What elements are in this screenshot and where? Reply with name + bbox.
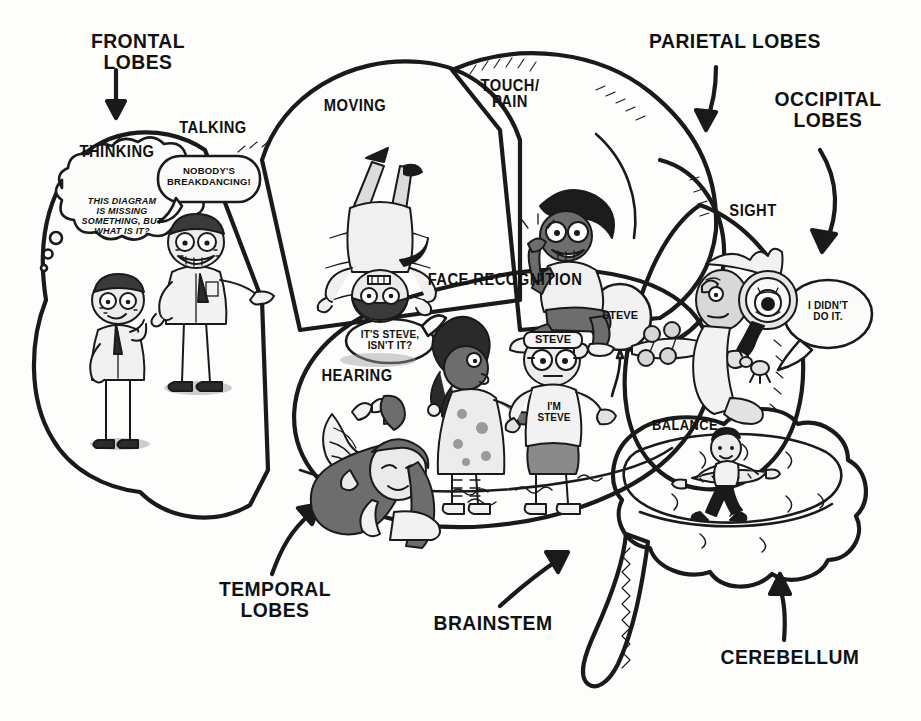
label-hearing: HEARING <box>306 368 407 384</box>
steve-balloon-text: STEVE <box>592 310 648 322</box>
steve-headband-text: STEVE <box>524 334 582 346</box>
figure-talking-man <box>151 214 274 395</box>
figure-hearing-girl <box>311 396 440 548</box>
label-occipital-lobes: OCCIPITAL LOBES <box>754 88 901 131</box>
label-parietal-lobes: PARIETAL LOBES <box>648 30 823 51</box>
label-brainstem: BRAINSTEM <box>415 612 571 633</box>
label-balance: BALANCE <box>634 418 735 432</box>
label-touch-pain: TOUCH/ PAIN <box>466 78 554 111</box>
figure-detective <box>693 249 797 424</box>
steve-tshirt-text: I'M STEVE <box>528 402 580 423</box>
bubble-text-detective: I DIDN'T DO IT. <box>788 300 868 322</box>
figure-balance-walker <box>672 428 780 520</box>
label-cerebellum: CEREBELLUM <box>707 646 873 667</box>
bubble-text-talking: NOBODY'S BREAKDANCING! <box>160 166 258 187</box>
label-talking: TALKING <box>162 120 263 136</box>
label-sight: SIGHT <box>712 203 795 219</box>
label-moving: MOVING <box>304 98 405 114</box>
brain-diagram-canvas: .ink{stroke:#1a1a1a;fill:none;stroke-lin… <box>0 0 921 721</box>
label-face-recognition: FACE RECOGNITION <box>408 272 601 288</box>
bubble-text-girl: IT'S STEVE, ISN'T IT? <box>348 329 432 351</box>
bubble-text-thinking: THIS DIAGRAM IS MISSING SOMETHING, BUT W… <box>60 196 184 236</box>
label-frontal-lobes: FRONTAL LOBES <box>55 30 221 73</box>
label-temporal-lobes: TEMPORAL LOBES <box>197 578 353 621</box>
figure-thinking-man <box>90 274 150 450</box>
label-thinking: THINKING <box>57 144 177 160</box>
